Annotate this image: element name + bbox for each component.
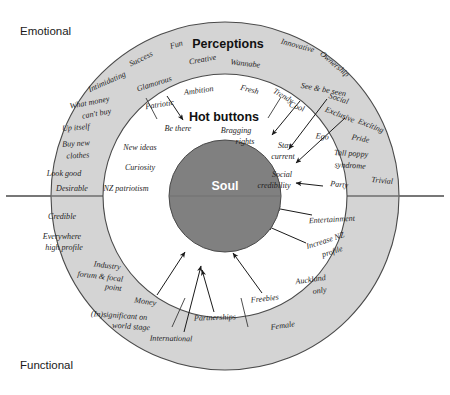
outer-ring-label: Buy new	[62, 138, 91, 148]
outer-ring-label: Tall poppy	[334, 148, 369, 159]
middle-ring-label: credibility	[258, 181, 291, 190]
outer-ring-label: Desirable	[55, 184, 88, 193]
middle-ring-label: Curiosity	[125, 163, 156, 172]
outer-ring-label: high profile	[45, 243, 83, 252]
middle-ring-label: Be there	[165, 124, 192, 133]
outer-ring-label: Ego	[314, 131, 329, 141]
outer-ring-label: International	[149, 334, 194, 344]
core-title: Soul	[211, 179, 238, 193]
axis-label-emotional: Emotional	[20, 25, 71, 37]
outer-ring-label: syndrome	[334, 160, 366, 171]
outer-ring-label: Partnerships	[193, 312, 236, 322]
middle-ring-label: Stay	[278, 141, 292, 150]
outer-ring-label: Everywhere	[42, 232, 82, 241]
middle-ring-label: rights	[236, 137, 255, 146]
middle-ring-label: Bragging	[221, 126, 252, 135]
middle-ring-label: current	[271, 152, 295, 161]
outer-ring-label: Look good	[46, 169, 82, 178]
middle-ring-label: Social	[272, 170, 293, 179]
outer-ring-title: Perceptions	[192, 37, 264, 51]
outer-ring-label: clothes	[66, 150, 89, 160]
onion-diagram: FunSuccessCreativeInnovativeOwnershipInt…	[0, 0, 450, 395]
middle-ring-title: Hot buttons	[189, 110, 259, 124]
middle-ring-label: NZ patriotism	[102, 184, 148, 193]
onion-diagram-canvas: FunSuccessCreativeInnovativeOwnershipInt…	[0, 0, 450, 395]
outer-ring-label: Credible	[48, 212, 76, 221]
axis-label-functional: Functional	[20, 359, 73, 371]
middle-ring-label: New ideas	[122, 143, 157, 152]
